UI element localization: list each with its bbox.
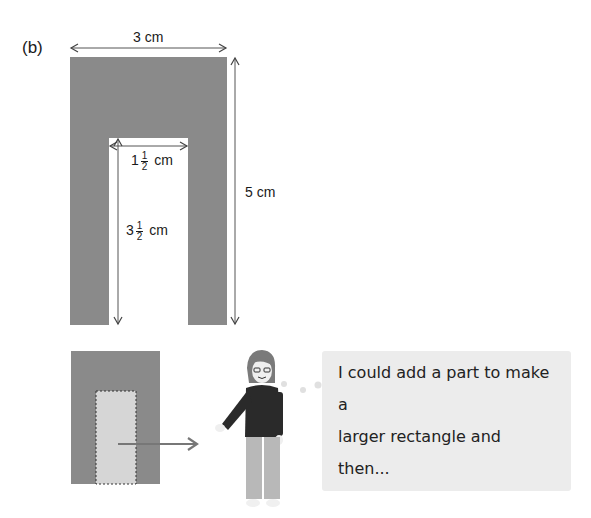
speech-line-2: larger rectangle and then... <box>338 421 555 485</box>
width-label: 3 cm <box>133 29 163 45</box>
speech-line-1: I could add a part to make a <box>338 357 555 421</box>
inner-width-label: 112 cm <box>131 151 173 172</box>
added-part <box>96 391 136 484</box>
speech-bubble: I could add a part to make a larger rect… <box>322 351 571 491</box>
child-character <box>215 350 283 507</box>
height-label: 5 cm <box>245 184 275 200</box>
inner-height-label: 312 cm <box>126 221 168 242</box>
u-shape <box>70 57 227 325</box>
